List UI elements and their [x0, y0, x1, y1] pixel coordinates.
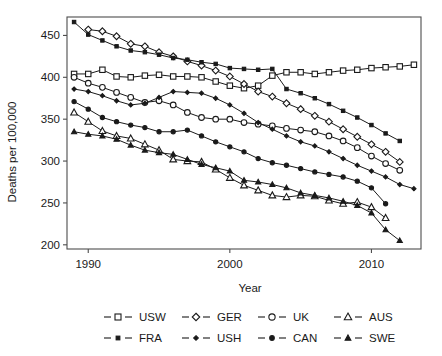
data-point-filled-square: [341, 109, 344, 112]
data-point-open-circle: [298, 127, 304, 133]
data-point-filled-circle: [369, 186, 373, 190]
data-point-filled-triangle: [86, 132, 91, 137]
data-point-filled-circle: [313, 170, 317, 174]
data-point-filled-square: [299, 92, 302, 95]
data-point-filled-square: [186, 58, 189, 61]
y-tick-label: 450: [41, 29, 60, 41]
data-point-open-circle: [312, 129, 318, 135]
data-point-open-square: [171, 74, 176, 79]
data-point-filled-square: [285, 87, 288, 90]
data-point-open-diamond: [382, 148, 389, 155]
series-can: [72, 99, 388, 205]
data-point-filled-circle: [72, 99, 76, 103]
legend-label-ush: USH: [217, 332, 241, 344]
y-axis-ticks: 450400350300250200: [41, 29, 67, 250]
series-uk: [71, 74, 402, 173]
data-point-filled-diamond: [313, 144, 317, 148]
legend-item-usw[interactable]: USW: [104, 311, 166, 323]
data-point-open-square: [383, 65, 388, 70]
data-point-filled-diamond: [284, 134, 288, 138]
data-point-filled-triangle: [128, 142, 133, 147]
data-point-filled-square: [200, 61, 203, 64]
data-point-filled-square: [271, 67, 274, 70]
data-point-open-diamond: [127, 40, 134, 47]
legend-item-ush[interactable]: USH: [182, 332, 241, 344]
data-point-filled-triangle: [185, 157, 190, 162]
y-tick-label: 400: [41, 71, 60, 83]
data-point-open-diamond: [226, 73, 233, 80]
data-point-filled-triangle: [256, 179, 261, 184]
data-point-open-square: [270, 73, 275, 78]
data-point-open-square: [156, 72, 161, 77]
data-point-open-triangle: [227, 174, 234, 180]
chart-legend: USWGERUKAUSFRAUSHCANSWE: [104, 311, 396, 344]
legend-item-swe[interactable]: SWE: [334, 332, 396, 344]
data-point-open-diamond: [326, 118, 333, 125]
x-axis-title: Year: [238, 282, 261, 294]
plot-frame: [67, 17, 421, 249]
data-point-filled-circle: [129, 123, 133, 127]
data-point-filled-triangle: [270, 182, 275, 187]
data-point-filled-diamond: [129, 103, 133, 107]
data-point-filled-circle: [355, 179, 359, 183]
data-point-filled-triangle: [369, 210, 374, 215]
data-point-open-circle: [369, 153, 375, 159]
data-point-filled-circle: [327, 172, 331, 176]
data-point-open-triangle: [382, 215, 389, 221]
data-point-open-square: [128, 75, 133, 80]
data-point-open-square: [340, 68, 345, 73]
data-point-filled-circle: [171, 130, 175, 134]
x-tick-label: 2010: [359, 258, 385, 270]
data-point-open-circle: [326, 133, 332, 139]
data-point-open-diamond: [283, 100, 290, 107]
data-point-open-circle: [340, 138, 346, 144]
data-point-open-diamond: [113, 33, 120, 40]
data-point-open-diamond: [368, 141, 375, 148]
data-point-filled-square: [115, 45, 118, 48]
legend-marker-filled-diamond: [194, 336, 199, 341]
legend-label-ger: GER: [217, 311, 242, 323]
data-point-filled-diamond: [86, 89, 90, 93]
data-point-open-square: [312, 71, 317, 76]
data-point-open-circle: [383, 161, 389, 167]
data-point-open-diamond: [142, 43, 149, 50]
data-point-filled-circle: [214, 140, 218, 144]
data-point-open-square: [185, 74, 190, 79]
legend-marker-open-triangle: [344, 313, 351, 320]
data-point-open-circle: [199, 115, 205, 121]
data-series-layer: [71, 20, 417, 242]
data-point-filled-diamond: [228, 103, 232, 107]
legend-item-fra[interactable]: FRA: [104, 332, 162, 344]
data-point-filled-square: [228, 66, 231, 69]
data-point-open-square: [284, 70, 289, 75]
data-point-filled-triangle: [341, 199, 346, 204]
data-point-filled-diamond: [299, 140, 303, 144]
data-point-filled-circle: [143, 125, 147, 129]
data-point-open-square: [397, 64, 402, 69]
data-point-open-circle: [185, 110, 191, 116]
x-tick-label: 2000: [217, 258, 243, 270]
legend-item-aus[interactable]: AUS: [334, 311, 393, 323]
data-point-filled-diamond: [214, 96, 218, 100]
data-point-filled-circle: [114, 120, 118, 124]
data-point-filled-square: [72, 20, 75, 23]
data-point-open-circle: [241, 120, 247, 126]
data-point-open-circle: [213, 116, 219, 122]
data-point-filled-diamond: [355, 163, 359, 167]
legend-label-aus: AUS: [369, 311, 393, 323]
data-point-open-circle: [85, 80, 91, 86]
legend-item-can[interactable]: CAN: [258, 332, 317, 344]
data-point-filled-square: [101, 39, 104, 42]
data-point-open-circle: [354, 145, 360, 151]
data-point-filled-triangle: [171, 152, 176, 157]
data-point-open-circle: [284, 126, 290, 132]
legend-item-uk[interactable]: UK: [258, 311, 309, 323]
data-point-filled-diamond: [383, 175, 387, 179]
series-swe: [72, 129, 403, 243]
data-point-filled-triangle: [326, 195, 331, 200]
data-point-filled-circle: [341, 175, 345, 179]
data-point-filled-circle: [86, 107, 90, 111]
legend-marker-open-diamond: [192, 313, 200, 321]
legend-item-ger[interactable]: GER: [182, 311, 242, 323]
chart-figure: 450400350300250200 199020002010 Deaths p…: [0, 0, 442, 356]
